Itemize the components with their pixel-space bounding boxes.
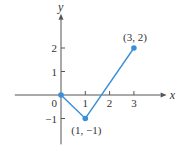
data-point (131, 45, 137, 51)
labels: xy123−1120(1, −1)(3, 2) (45, 0, 175, 136)
x-tick-label: 1 (83, 97, 89, 109)
series-line (61, 48, 134, 119)
y-tick-label: −1 (45, 113, 57, 125)
data-point (83, 116, 89, 122)
y-axis-label: y (57, 0, 64, 14)
point-label: (3, 2) (123, 31, 147, 44)
data-point (58, 92, 64, 98)
series (58, 45, 137, 121)
x-tick-label: 2 (107, 97, 113, 109)
y-axis-arrow (59, 14, 64, 20)
point-label: (1, −1) (71, 124, 101, 137)
x-tick-label: 3 (131, 97, 137, 109)
y-tick-label: 1 (52, 66, 58, 78)
y-tick-label: 2 (52, 42, 58, 54)
x-axis-label: x (169, 88, 176, 102)
chart: xy123−1120(1, −1)(3, 2) (0, 0, 180, 154)
x-axis-arrow (161, 93, 167, 98)
origin-label: 0 (52, 97, 58, 109)
